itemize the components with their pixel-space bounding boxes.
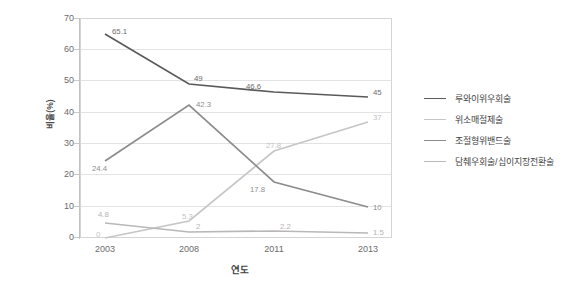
legend-item[interactable]: 담췌우회술/십이지장전환술 (424, 151, 574, 172)
gridline (81, 174, 391, 175)
y-axis-tick-label: 70 (40, 13, 74, 23)
legend-item[interactable]: 위소매절제술 (424, 109, 574, 130)
gridline (81, 112, 391, 113)
data-label: 0 (96, 230, 100, 239)
legend-item[interactable]: 조절형위밴드술 (424, 130, 574, 151)
y-axis-tick-mark (74, 18, 79, 19)
y-axis-tick-mark (74, 206, 79, 207)
data-label: 24.4 (92, 164, 107, 173)
y-axis-tick-label: 10 (40, 201, 74, 211)
data-label: 42.3 (196, 100, 211, 109)
y-axis-tick-label: 60 (40, 44, 74, 54)
data-label: 2 (196, 222, 200, 231)
data-label: 46.6 (246, 82, 261, 91)
y-axis-tick-mark (74, 49, 79, 50)
y-axis-tick-label: 50 (40, 75, 74, 85)
legend-swatch-icon (424, 98, 446, 99)
y-axis-tick-label: 0 (40, 232, 74, 242)
y-axis-tick-mark (74, 112, 79, 113)
legend-item[interactable]: 루와이위우회술 (424, 88, 574, 109)
legend: 루와이위우회술 위소매절제술 조절형위밴드술 담췌우회술/십이지장전환술 (424, 88, 574, 172)
legend-label: 조절형위밴드술 (455, 134, 511, 147)
gridline (81, 143, 391, 144)
x-axis-tick-label: 2003 (77, 244, 133, 254)
x-axis-tick-label: 2013 (340, 244, 396, 254)
y-axis-tick-label: 30 (40, 138, 74, 148)
x-axis-title: 연도 (80, 262, 400, 276)
gridline (81, 49, 391, 50)
gridline (81, 206, 391, 207)
data-label: 2.2 (280, 222, 291, 231)
legend-label: 루와이위우회술 (455, 92, 511, 105)
plot-area (80, 18, 392, 238)
legend-label: 담췌우회술/십이지장전환술 (455, 155, 554, 168)
y-axis-tick-mark (74, 143, 79, 144)
legend-label: 위소매절제술 (455, 113, 503, 126)
x-axis-tick-label: 2008 (161, 244, 217, 254)
legend-swatch-icon (424, 140, 446, 141)
data-label: 10 (373, 203, 382, 212)
y-axis-tick-label: 40 (40, 107, 74, 117)
legend-swatch-icon (424, 119, 446, 120)
y-axis-tick-mark (74, 174, 79, 175)
data-label: 17.8 (250, 185, 265, 194)
data-label: 1.5 (373, 228, 384, 237)
data-label: 5.3 (182, 212, 193, 221)
data-label: 27.8 (266, 141, 281, 150)
legend-swatch-icon (424, 161, 446, 162)
y-axis-tick-mark (74, 237, 79, 238)
data-label: 49 (194, 74, 203, 83)
gridline (81, 80, 391, 81)
y-axis-tick-mark (74, 80, 79, 81)
data-label: 4.8 (98, 210, 109, 219)
data-label: 65.1 (112, 27, 127, 36)
data-label: 37 (373, 113, 382, 122)
y-axis-tick-label: 20 (40, 169, 74, 179)
data-label: 45 (373, 88, 382, 97)
line-chart: 비율(%) 70 60 50 40 30 20 10 0 65.1 49 46.… (0, 0, 578, 288)
x-axis-tick-label: 2011 (246, 244, 302, 254)
